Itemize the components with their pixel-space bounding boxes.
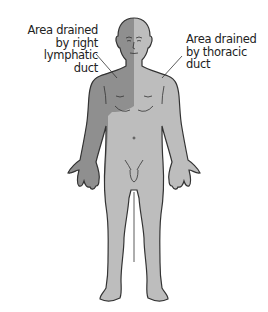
leader-line-thoracic bbox=[162, 56, 182, 78]
label-thoracic-duct: Area drained by thoracic duct bbox=[186, 33, 256, 71]
label-line: lymphatic bbox=[28, 49, 98, 62]
label-right-lymphatic-duct: Area drained by right lymphatic duct bbox=[28, 24, 98, 74]
label-line: Area drained bbox=[28, 24, 98, 37]
label-line: duct bbox=[28, 62, 98, 75]
label-line: Area drained bbox=[186, 33, 256, 46]
label-line: duct bbox=[186, 58, 256, 71]
